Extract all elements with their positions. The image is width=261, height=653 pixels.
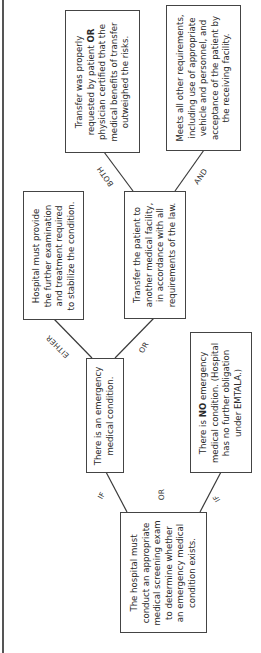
text-line: vehicle and personnel, and <box>198 14 210 141</box>
text-line: Transfer was properly <box>74 22 86 141</box>
text-line: the further examination <box>42 201 54 310</box>
text-line: including use of appropriate <box>186 14 198 141</box>
text-fragment: emergency <box>198 351 208 402</box>
node-no-emergency-text: There is NO emergency medical condition.… <box>198 342 244 462</box>
text-line: condition exists. <box>187 520 199 625</box>
text-fragment: requested by patient <box>85 42 95 135</box>
text-line: Hospital must provide <box>30 201 42 310</box>
node-transfer-requested: Transfer was properly requested by patie… <box>65 10 140 153</box>
text-fragment: There is <box>198 417 208 454</box>
edge-label-or-screening: OR <box>157 489 166 501</box>
node-transfer-requested-text: Transfer was properly requested by patie… <box>74 22 132 141</box>
text-line: conduct an appropriate <box>140 520 152 625</box>
node-transfer-text: Transfer the patient to another medical … <box>132 203 178 308</box>
node-screening: The hospital must conduct an appropriate… <box>120 512 207 633</box>
text-line: requirements of the law. <box>167 203 179 308</box>
text-line: under EMTALA.) <box>233 342 245 462</box>
text-line: medical benefits of transfer <box>108 22 120 141</box>
text-line: requested by patient OR <box>85 22 97 141</box>
text-line: and treatment required <box>54 201 66 310</box>
node-emergency: There is an emergency medical condition. <box>86 358 124 473</box>
text-line: the receiving facility. <box>221 14 233 141</box>
text-line: another medical facility, <box>143 203 155 308</box>
text-line: to determine whether <box>164 520 176 625</box>
text-line: to stabilize the condition. <box>65 201 77 310</box>
text-line: has no further obligation <box>221 342 233 462</box>
text-line: medical condition. <box>105 366 117 465</box>
emphasis-no: NO <box>198 402 208 417</box>
node-other-requirements-text: Meets all other requirements, including … <box>175 14 233 141</box>
node-no-emergency: There is NO emergency medical condition.… <box>190 332 252 473</box>
connector-screening-emergency <box>106 472 127 512</box>
connector-emergency-transfer <box>115 318 154 358</box>
text-line: Transfer the patient to <box>132 203 144 308</box>
text-line: medical condition. (Hospital <box>209 342 221 462</box>
text-line: There is NO emergency <box>198 342 210 462</box>
text-line: medical screening exam <box>152 520 164 625</box>
emphasis-or: OR <box>85 28 95 42</box>
node-emergency-text: There is an emergency medical condition. <box>93 366 116 465</box>
connector-screening-no-emergency <box>200 472 221 512</box>
node-transfer: Transfer the patient to another medical … <box>124 191 186 319</box>
node-stabilize: Hospital must provide the further examin… <box>23 191 84 320</box>
node-stabilize-text: Hospital must provide the further examin… <box>30 201 76 310</box>
text-line: outweighed the risks. <box>120 22 132 141</box>
node-screening-text: The hospital must conduct an appropriate… <box>129 520 199 625</box>
text-line: in accordance with all <box>155 203 167 308</box>
text-line: physician certified that the <box>97 22 109 141</box>
text-line: an emergency medical <box>175 520 187 625</box>
text-line: The hospital must <box>129 520 141 625</box>
text-line: acceptance of the patient by <box>209 14 221 141</box>
text-line: Meets all other requirements, <box>175 14 187 141</box>
text-line: There is an emergency <box>93 366 105 465</box>
node-other-requirements: Meets all other requirements, including … <box>166 5 241 151</box>
